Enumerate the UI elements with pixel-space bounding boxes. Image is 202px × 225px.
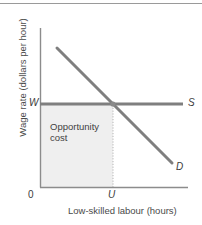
quantity-tick-label: U	[108, 189, 115, 201]
supply-curve-label: S	[188, 97, 195, 109]
wage-tick-label: W	[29, 97, 38, 109]
opportunity-cost-label: Opportunity cost	[50, 122, 106, 144]
x-axis-label: Low-skilled labour (hours)	[68, 206, 177, 217]
equilibrium-point	[110, 101, 115, 106]
y-axis-label: Wage rate (dollars per hour)	[18, 2, 29, 152]
origin-label: 0	[28, 189, 34, 201]
demand-curve-label: D	[176, 161, 183, 173]
supply-demand-figure: Wage rate (dollars per hour) Low-skilled…	[0, 0, 202, 225]
opportunity-cost-region	[40, 104, 113, 187]
